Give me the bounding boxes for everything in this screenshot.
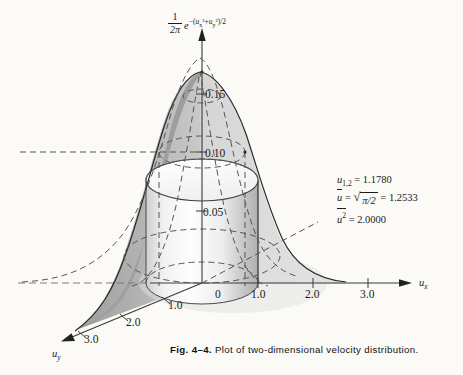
annotation-u12: u1,2 = 1.1780 bbox=[337, 172, 418, 190]
caption-text: Plot of two-dimensional velocity distrib… bbox=[215, 344, 418, 355]
x-tick-label-1.0: 1.0 bbox=[251, 288, 265, 300]
figure-container: 1 2π e−(ux²+uy²)/2 bbox=[0, 0, 463, 375]
y-tick-label-1.0: 1.0 bbox=[168, 299, 182, 311]
z-tick-label-0.05: 0.05 bbox=[203, 206, 223, 218]
y-tick-label-2.0: 2.0 bbox=[126, 316, 140, 328]
x-tick-label-0: 0 bbox=[215, 288, 221, 300]
annotation-ubar: u = √π/2 = 1.2533 bbox=[337, 190, 418, 209]
y-axis-label: uy bbox=[52, 348, 61, 362]
x-axis-label: ux bbox=[419, 277, 428, 291]
x-tick-label-3.0: 3.0 bbox=[360, 288, 374, 300]
caption-number: Fig. 4–4. bbox=[170, 344, 212, 355]
marker-u12 bbox=[243, 150, 246, 153]
z-tick-label-0.10: 0.10 bbox=[205, 147, 225, 159]
x-axis-arrow bbox=[399, 279, 412, 286]
y-axis-arrow bbox=[61, 333, 75, 341]
x-tick-label-2.0: 2.0 bbox=[305, 288, 319, 300]
figure-caption: Fig. 4–4. Plot of two-dimensional veloci… bbox=[170, 344, 418, 355]
annotation-ubar-squared: u2 = 2.0000 bbox=[337, 209, 418, 228]
z-axis-arrow bbox=[198, 28, 205, 41]
peak-marker bbox=[200, 70, 203, 73]
z-tick-label-0.15: 0.15 bbox=[205, 88, 225, 100]
annotation-block: u1,2 = 1.1780 u = √π/2 = 1.2533 u2 = 2.0… bbox=[337, 172, 418, 228]
y-tick-label-3.0: 3.0 bbox=[84, 333, 98, 345]
